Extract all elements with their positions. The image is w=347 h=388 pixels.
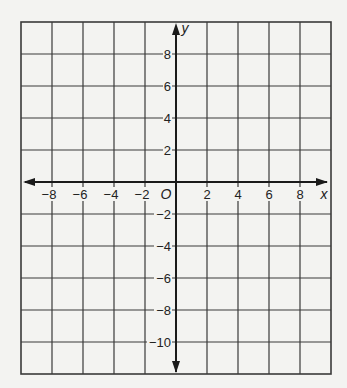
x-axis-arrow-left-icon bbox=[23, 178, 35, 186]
y-tick-label: −6 bbox=[156, 271, 171, 286]
y-tick-label: −2 bbox=[156, 207, 171, 222]
x-tick-label: 4 bbox=[234, 187, 241, 202]
y-tick-label: 2 bbox=[164, 143, 171, 158]
y-tick-label: 6 bbox=[164, 79, 171, 94]
axes bbox=[23, 23, 328, 373]
x-tick-label: −6 bbox=[73, 187, 88, 202]
x-tick-label: 6 bbox=[265, 187, 272, 202]
origin-label: O bbox=[161, 186, 172, 202]
x-tick-label: −4 bbox=[104, 187, 119, 202]
y-axis-label: y bbox=[181, 20, 190, 36]
y-tick-label: −4 bbox=[156, 239, 171, 254]
y-axis-arrow-up-icon bbox=[172, 23, 180, 35]
y-tick-label: 8 bbox=[164, 47, 171, 62]
y-tick-label: −8 bbox=[156, 303, 171, 318]
x-tick-label: 2 bbox=[203, 187, 210, 202]
tick-labels: −8−6−4−224688642−2−4−6−8−10Oxy bbox=[38, 20, 329, 350]
x-axis-arrow-right-icon bbox=[316, 178, 328, 186]
x-tick-label: −8 bbox=[42, 187, 57, 202]
coordinate-grid: −8−6−4−224688642−2−4−6−8−10Oxy bbox=[0, 0, 347, 388]
x-tick-label: 8 bbox=[296, 187, 303, 202]
y-tick-label: −10 bbox=[149, 335, 171, 350]
y-tick-label: 4 bbox=[164, 111, 171, 126]
x-axis-label: x bbox=[320, 186, 329, 202]
y-axis-arrow-down-icon bbox=[172, 361, 180, 373]
x-tick-label: −2 bbox=[135, 187, 150, 202]
